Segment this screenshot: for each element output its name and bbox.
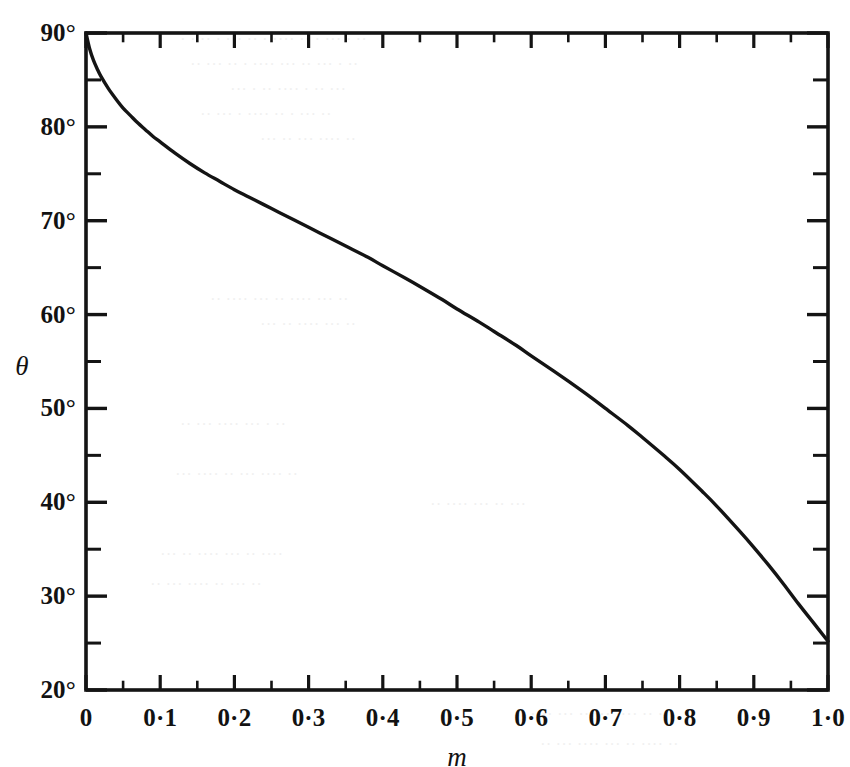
y-tick-label: 20° [40,676,76,704]
x-tick-label: 0·5 [440,704,474,732]
y-tick-label: 30° [40,582,76,610]
y-tick-label: 40° [40,488,76,516]
x-tick-label: 0·7 [588,704,622,732]
x-tick-label: 0·2 [217,704,251,732]
y-tick-label: 90° [40,19,76,47]
y-tick-label: 70° [40,207,76,235]
data-series-curve [86,33,828,641]
x-tick-label: 0·3 [292,704,326,732]
y-tick-label: 60° [40,301,76,329]
x-tick-label: 0·1 [143,704,177,732]
x-tick-label: 0·6 [514,704,548,732]
y-tick-label: 50° [40,394,76,422]
x-tick-label: 1·0 [811,704,845,732]
x-tick-label: 0·4 [366,704,400,732]
x-axis-title: m [447,742,467,767]
x-tick-label: 0·8 [663,704,697,732]
x-tick-label: 0·9 [737,704,771,732]
axis-frame [86,33,828,690]
tick-marks [86,33,828,690]
x-tick-label: 0 [80,704,93,732]
chart-plot-area [0,0,850,767]
y-tick-label: 80° [40,113,76,141]
y-axis-title: θ [15,351,28,382]
figure-container: 20°30°40°50°60°70°80°90° 00·10·20·30·40·… [0,0,850,767]
